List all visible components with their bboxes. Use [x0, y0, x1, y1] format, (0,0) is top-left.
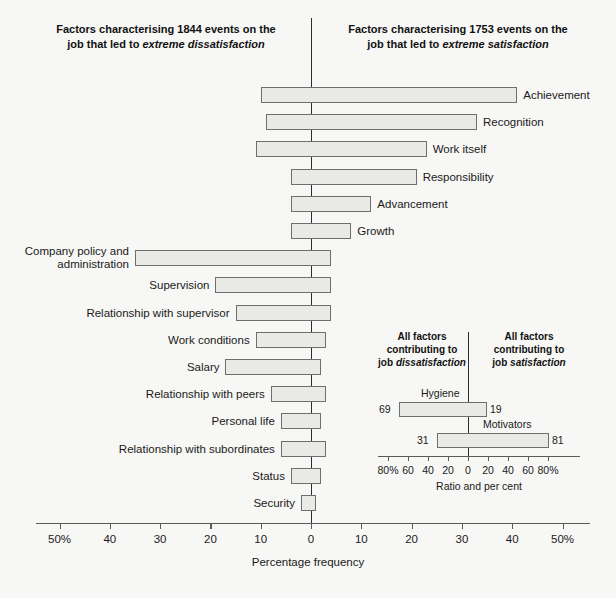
x-axis-line	[36, 523, 590, 524]
factor-label: Growth	[357, 223, 394, 239]
factor-bar[interactable]	[256, 332, 326, 348]
x-axis-tick	[412, 523, 413, 529]
factor-bar[interactable]	[225, 359, 321, 375]
inset-right-value: 81	[552, 433, 564, 448]
x-axis-tick-label: 50%	[543, 533, 583, 545]
herzberg-chart-figure: Factors characterising 1844 events on th…	[0, 0, 616, 598]
inset-x-axis-tick	[448, 456, 449, 461]
bar-row: Company policy and administration	[0, 250, 616, 266]
inset-right-value: 19	[490, 402, 502, 417]
factor-label: Work itself	[433, 141, 486, 157]
x-axis-tick-label: 30	[140, 533, 180, 545]
inset-header-satisfaction-line3-prefix: job	[492, 357, 510, 368]
inset-header-dissatisfaction-line2: contributing to	[387, 344, 458, 355]
inset-x-axis-tick	[528, 456, 529, 461]
factor-bar[interactable]	[271, 386, 326, 402]
factor-bar[interactable]	[281, 413, 321, 429]
factor-label: Personal life	[212, 413, 275, 429]
inset-header-satisfaction-line2: contributing to	[494, 344, 565, 355]
factor-label: Security	[253, 495, 295, 511]
x-axis-tick-label: 30	[442, 533, 482, 545]
header-dissatisfaction-line2-prefix: job that led to	[67, 38, 142, 50]
inset-header-satisfaction-emphasis: satisfaction	[510, 357, 566, 368]
x-axis-tick-label: 10	[241, 533, 281, 545]
inset-header-satisfaction-line1: All factors	[505, 331, 554, 342]
factor-label: Status	[252, 468, 285, 484]
factor-label: Responsibility	[423, 169, 494, 185]
x-axis-tick	[110, 523, 111, 529]
inset-x-axis-tick-label: 80%	[531, 464, 565, 476]
factor-label: Work conditions	[168, 332, 250, 348]
factor-bar[interactable]	[301, 495, 316, 511]
bar-row: Relationship with supervisor	[0, 305, 616, 321]
factor-bar[interactable]	[291, 468, 321, 484]
inset-left-value: 31	[417, 433, 429, 448]
header-satisfaction-line1: Factors characterising 1753 events on th…	[348, 23, 567, 35]
header-satisfaction-line2-prefix: job that led to	[367, 38, 442, 50]
bar-row: Work itself	[0, 141, 616, 157]
bar-row: Security	[0, 495, 616, 511]
header-satisfaction-emphasis: extreme satisfaction	[442, 38, 548, 50]
factor-label: Relationship with supervisor	[86, 305, 229, 321]
factor-bar[interactable]	[291, 196, 371, 212]
factor-label: Relationship with subordinates	[119, 441, 275, 457]
inset-bar[interactable]	[399, 402, 487, 417]
inset-header-dissatisfaction-line3-prefix: job	[378, 357, 396, 368]
x-axis-tick	[160, 523, 161, 529]
bar-row: Responsibility	[0, 169, 616, 185]
inset-header-dissatisfaction-line1: All factors	[398, 331, 447, 342]
factor-label: Achievement	[523, 87, 589, 103]
x-axis-tick	[210, 523, 211, 529]
x-axis-tick	[563, 523, 564, 529]
x-axis-tick-label: 10	[341, 533, 381, 545]
header-dissatisfaction-line1: Factors characterising 1844 events on th…	[56, 23, 275, 35]
factor-label: Advancement	[377, 196, 447, 212]
factor-bar[interactable]	[291, 169, 417, 185]
factor-bar[interactable]	[135, 250, 331, 266]
inset-left-value: 69	[379, 402, 391, 417]
inset-x-axis-tick	[548, 456, 549, 461]
x-axis-tick	[60, 523, 61, 529]
inset-x-axis-tick	[468, 456, 469, 461]
inset-x-axis-tick	[488, 456, 489, 461]
x-axis-title: Percentage frequency	[0, 556, 616, 568]
bar-row: Supervision	[0, 277, 616, 293]
x-axis-tick	[261, 523, 262, 529]
x-axis-tick-label: 50%	[40, 533, 80, 545]
inset-bar[interactable]	[437, 433, 549, 448]
header-dissatisfaction-emphasis: extreme dissatisfaction	[142, 38, 264, 50]
inset-bar-name: Motivators	[483, 418, 531, 430]
factor-bar[interactable]	[281, 441, 326, 457]
x-axis-tick	[512, 523, 513, 529]
header-satisfaction: Factors characterising 1753 events on th…	[322, 22, 594, 52]
inset-x-axis-title: Ratio and per cent	[378, 480, 580, 492]
bar-row: Advancement	[0, 196, 616, 212]
factor-bar[interactable]	[261, 87, 518, 103]
bar-row: Growth	[0, 223, 616, 239]
inset-header-dissatisfaction-emphasis: dissatisfaction	[396, 357, 466, 368]
x-axis-tick	[361, 523, 362, 529]
factor-label: Company policy and administration	[9, 245, 129, 271]
factor-bar[interactable]	[236, 305, 332, 321]
factor-bar[interactable]	[256, 141, 427, 157]
header-dissatisfaction: Factors characterising 1844 events on th…	[30, 22, 302, 52]
inset-x-axis-tick	[388, 456, 389, 461]
inset-ratio-chart: All factors contributing to job dissatis…	[378, 330, 602, 490]
factor-label: Supervision	[149, 277, 209, 293]
factor-bar[interactable]	[291, 223, 351, 239]
inset-x-axis-tick	[428, 456, 429, 461]
inset-x-axis-tick	[408, 456, 409, 461]
x-axis-tick	[462, 523, 463, 529]
x-axis-tick-label: 40	[492, 533, 532, 545]
factor-bar[interactable]	[215, 277, 331, 293]
bar-row: Recognition	[0, 114, 616, 130]
factor-label: Relationship with peers	[146, 386, 265, 402]
x-axis-tick	[311, 523, 312, 529]
x-axis-tick-label: 0	[291, 533, 331, 545]
bar-row: Achievement	[0, 87, 616, 103]
factor-label: Recognition	[483, 114, 544, 130]
inset-bar-name: Hygiene	[421, 387, 460, 399]
factor-bar[interactable]	[266, 114, 477, 130]
inset-header-satisfaction: All factors contributing to job satisfac…	[474, 330, 584, 369]
x-axis-tick-label: 20	[392, 533, 432, 545]
